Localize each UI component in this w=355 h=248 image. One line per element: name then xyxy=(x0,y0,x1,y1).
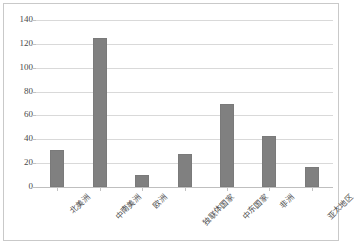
y-tick-label: 0 xyxy=(0,182,33,191)
y-tick-label: 100 xyxy=(0,63,33,72)
y-tick-label: 60 xyxy=(0,110,33,119)
bar[interactable] xyxy=(50,150,64,187)
bar[interactable] xyxy=(262,136,276,187)
y-tick-label: 40 xyxy=(0,134,33,143)
bar[interactable] xyxy=(220,104,234,188)
x-tick-mark xyxy=(100,187,101,191)
x-tick-mark xyxy=(57,187,58,191)
x-tick-mark xyxy=(185,187,186,191)
y-tick-label: 120 xyxy=(0,39,33,48)
bar[interactable] xyxy=(135,175,149,187)
bar[interactable] xyxy=(93,38,107,187)
bar[interactable] xyxy=(178,154,192,187)
x-tick-mark xyxy=(312,187,313,191)
x-tick-mark xyxy=(227,187,228,191)
x-tick-mark xyxy=(269,187,270,191)
y-tick-label: 80 xyxy=(0,87,33,96)
plot-area xyxy=(36,20,333,187)
x-tick-mark xyxy=(142,187,143,191)
y-tick-label: 140 xyxy=(0,15,33,24)
bar[interactable] xyxy=(305,167,319,187)
y-tick-label: 20 xyxy=(0,158,33,167)
